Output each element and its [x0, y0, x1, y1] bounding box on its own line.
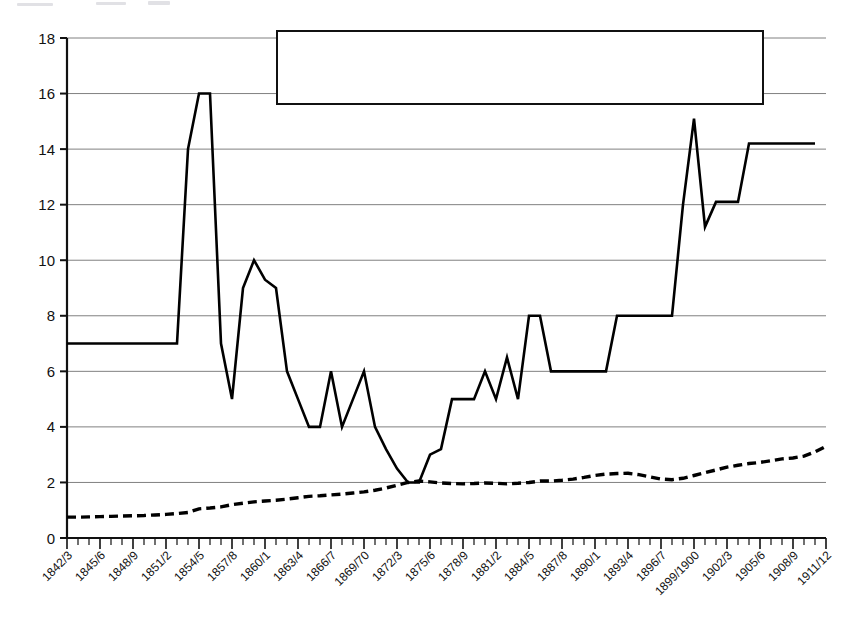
x-tick-label: 1842/3 [39, 548, 75, 584]
line-chart-canvas: 0246810121416181842/31845/61848/91851/21… [0, 0, 854, 625]
y-tick-label: 0 [47, 530, 55, 547]
x-tick-label: 1869/70 [332, 548, 373, 589]
x-tick-label: 1851/2 [138, 548, 174, 584]
x-tick-label: 1854/5 [171, 548, 207, 584]
x-tick-label: 1857/8 [204, 548, 240, 584]
y-tick-label: 2 [47, 474, 55, 491]
chart-figure: 0246810121416181842/31845/61848/91851/21… [0, 0, 854, 625]
x-tick-label: 1911/12 [794, 548, 834, 588]
x-tick-label: 1848/9 [105, 548, 141, 584]
y-tick-label: 8 [47, 307, 55, 324]
y-tick-label: 6 [47, 363, 55, 380]
x-tick-label: 1887/8 [534, 548, 570, 584]
x-tick-label: 1884/5 [501, 548, 537, 584]
x-tick-label: 1872/3 [369, 548, 405, 584]
x-tick-label: 1881/2 [468, 548, 504, 584]
series-line-2 [67, 446, 826, 517]
x-tick-label: 1845/6 [72, 548, 108, 584]
y-tick-label: 12 [38, 196, 55, 213]
x-tick-label: 1875/6 [402, 548, 438, 584]
y-tick-label: 18 [38, 30, 55, 47]
x-tick-label: 1893/4 [600, 548, 636, 584]
x-tick-label: 1878/9 [435, 548, 471, 584]
legend-box [277, 31, 763, 104]
x-tick-label: 1863/4 [270, 548, 306, 584]
x-tick-label: 1860/1 [237, 548, 273, 584]
x-tick-label: 1890/1 [567, 548, 603, 584]
x-tick-label: 1902/3 [699, 548, 735, 584]
y-tick-label: 4 [47, 418, 55, 435]
y-tick-label: 14 [38, 141, 55, 158]
series-line-1 [67, 94, 815, 483]
x-tick-label: 1905/6 [732, 548, 768, 584]
y-tick-label: 16 [38, 85, 55, 102]
y-tick-label: 10 [38, 252, 55, 269]
